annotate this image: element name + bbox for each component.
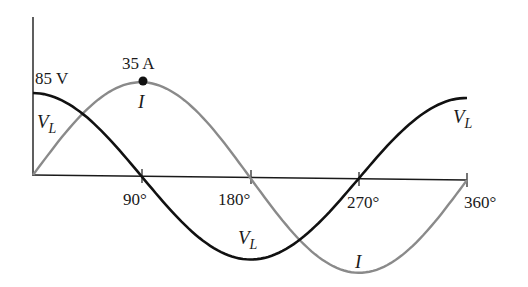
tick-label-360: 360° xyxy=(464,193,496,212)
vl-subscript: L xyxy=(464,116,473,131)
current-peak-dot xyxy=(139,77,148,86)
vl-label-left: VL xyxy=(37,111,57,136)
tick-label-90: 90° xyxy=(123,190,147,209)
phase-diagram: 85 V 35 A VL I VL VL I 90° 180° 270° 360… xyxy=(0,0,528,287)
vl-subscript: L xyxy=(249,237,258,252)
i-peak-label: 35 A xyxy=(122,54,155,73)
vl-label-bottom: VL xyxy=(238,227,258,252)
vl-subscript: L xyxy=(48,121,57,136)
axes xyxy=(33,17,467,187)
vl-label-right: VL xyxy=(453,106,473,131)
tick-label-180: 180° xyxy=(218,190,250,209)
vl-peak-label: 85 V xyxy=(35,69,69,88)
i-label-bottom: I xyxy=(354,251,363,272)
tick-label-270: 270° xyxy=(347,193,379,212)
i-label-top: I xyxy=(137,91,146,112)
